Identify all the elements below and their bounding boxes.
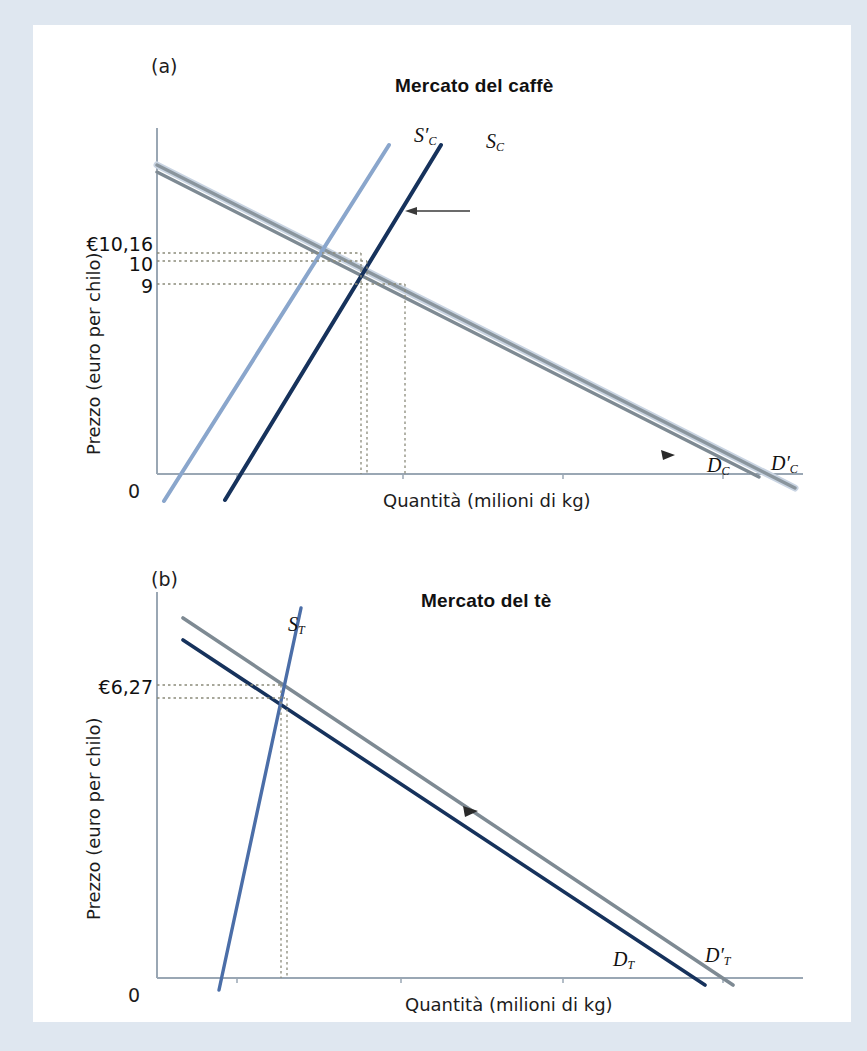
demand-shifted-tea-letter: D bbox=[705, 944, 719, 966]
figure-page: (a) Mercato del caffè Prezzo (euro per c… bbox=[0, 0, 867, 1051]
demand-shifted-coffee-halo bbox=[157, 165, 795, 488]
demand-original-coffee-subscript: C bbox=[721, 464, 729, 478]
supply-original-coffee-subscript: C bbox=[496, 140, 504, 154]
supply-shifted-coffee-subscript: C bbox=[428, 134, 436, 148]
panel-a-title: Mercato del caffè bbox=[395, 75, 554, 97]
supply-tea-letter: S bbox=[288, 613, 298, 635]
supply-shifted-coffee-label: S′C bbox=[414, 124, 436, 149]
supply-shifted-coffee-letter: S bbox=[414, 124, 424, 146]
panel-b-ytick-1: €6,27 bbox=[53, 676, 153, 698]
supply-tea-label: ST bbox=[288, 613, 305, 638]
demand-shifted-coffee-curve bbox=[157, 165, 795, 488]
panel-a-letter: (a) bbox=[151, 55, 177, 77]
demand-original-tea-label: DT bbox=[613, 948, 634, 973]
supply-original-coffee-label: SC bbox=[486, 130, 504, 155]
demand-shift-arrow-head-tea bbox=[463, 806, 478, 817]
demand-original-tea-letter: D bbox=[613, 948, 627, 970]
demand-original-coffee-gap bbox=[157, 172, 759, 477]
supply-tea-curve bbox=[219, 608, 301, 990]
panel-tea-market: (b) Mercato del tè Prezzo (euro per chil… bbox=[33, 530, 851, 1022]
demand-original-coffee-label: DC bbox=[707, 454, 729, 479]
panel-b-origin-label: 0 bbox=[128, 984, 140, 1006]
panel-a-ytick-2: 10 bbox=[53, 253, 153, 275]
panel-a-origin-label: 0 bbox=[128, 480, 140, 502]
panel-a-ytick-1: €10,16 bbox=[53, 233, 153, 255]
demand-original-coffee-letter: D bbox=[707, 454, 721, 476]
demand-shifted-coffee-letter: D bbox=[771, 452, 785, 474]
demand-shift-arrow-head bbox=[661, 450, 675, 460]
demand-shifted-tea-subscript: T bbox=[724, 954, 731, 968]
demand-shifted-tea-label: D′T bbox=[705, 944, 731, 969]
panel-b-letter: (b) bbox=[151, 568, 178, 590]
panel-b-title: Mercato del tè bbox=[421, 590, 552, 612]
panel-a-ytick-3: 9 bbox=[53, 275, 153, 297]
supply-shift-arrow-head bbox=[405, 207, 417, 215]
panel-b-y-axis-title: Prezzo (euro per chilo) bbox=[83, 718, 104, 920]
panel-b-x-axis-title: Quantità (milioni di kg) bbox=[405, 994, 613, 1015]
demand-original-tea-subscript: T bbox=[627, 958, 634, 972]
demand-original-coffee-curve bbox=[157, 172, 759, 477]
demand-shifted-tea-curve bbox=[183, 618, 733, 985]
supply-original-coffee-curve bbox=[225, 145, 441, 500]
demand-shifted-coffee-label: D′C bbox=[771, 452, 798, 477]
panel-coffee-market: (a) Mercato del caffè Prezzo (euro per c… bbox=[33, 25, 851, 530]
supply-original-coffee-letter: S bbox=[486, 130, 496, 152]
figure-card: (a) Mercato del caffè Prezzo (euro per c… bbox=[33, 25, 851, 1022]
panel-a-x-axis-title: Quantità (milioni di kg) bbox=[383, 490, 591, 511]
demand-original-tea-curve bbox=[183, 640, 705, 985]
demand-shifted-coffee-subscript: C bbox=[790, 462, 798, 476]
supply-shifted-coffee-curve bbox=[164, 145, 389, 501]
supply-tea-subscript: T bbox=[298, 623, 305, 637]
figure-caption-partial bbox=[0, 1032, 867, 1051]
